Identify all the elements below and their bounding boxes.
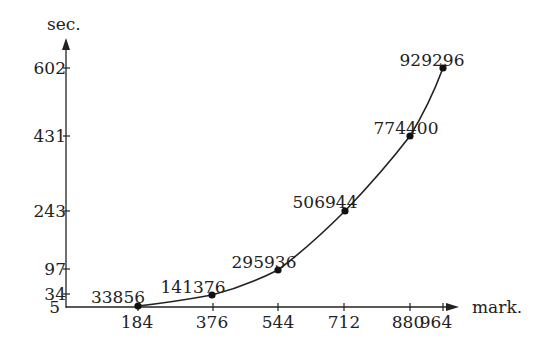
y-tick-label: 431 bbox=[34, 126, 66, 146]
line-chart: sec. 602 431 243 97 34 5 mark. 184 bbox=[0, 0, 557, 352]
point-labels: 33856 141376 295936 506944 774400 929296 bbox=[91, 50, 465, 307]
y-tick-label: 602 bbox=[34, 58, 66, 78]
data-points bbox=[134, 64, 446, 309]
y-axis: sec. 602 431 243 97 34 5 bbox=[34, 14, 81, 317]
point-label: 141376 bbox=[161, 277, 226, 297]
y-axis-label: sec. bbox=[47, 14, 81, 34]
x-axis-label: mark. bbox=[472, 297, 522, 317]
x-tick-label: 376 bbox=[196, 312, 228, 332]
x-tick-label: 544 bbox=[262, 312, 294, 332]
x-tick-label: 184 bbox=[121, 312, 153, 332]
y-tick-label: 5 bbox=[49, 297, 60, 317]
y-tick-label: 97 bbox=[44, 259, 66, 279]
x-axis-arrow-icon bbox=[446, 303, 459, 311]
point-label: 295936 bbox=[232, 252, 297, 272]
x-tick-label: 712 bbox=[328, 312, 360, 332]
point-label: 929296 bbox=[400, 50, 465, 70]
point-label: 506944 bbox=[293, 192, 358, 212]
y-axis-arrow-icon bbox=[62, 38, 70, 50]
x-tick-label: 964 bbox=[420, 312, 452, 332]
point-label: 33856 bbox=[91, 287, 145, 307]
point-label: 774400 bbox=[374, 118, 439, 138]
y-tick-label: 243 bbox=[34, 201, 66, 221]
